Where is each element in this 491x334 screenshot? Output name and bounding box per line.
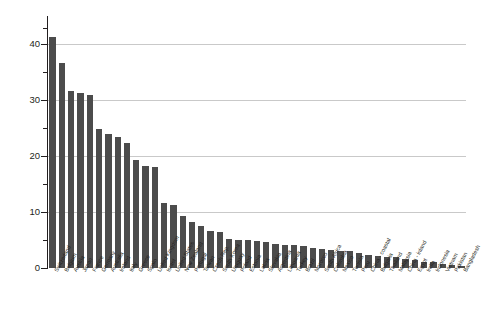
bar (49, 37, 55, 268)
y-tick-label: 20 (6, 151, 40, 161)
bar (124, 143, 130, 268)
bar (133, 160, 139, 268)
y-axis-tick-labels: 010203040 (0, 0, 40, 334)
bar (87, 95, 93, 268)
bar (142, 166, 148, 268)
y-tick-label: 10 (6, 207, 40, 217)
bar (105, 134, 111, 268)
bar (115, 137, 121, 268)
y-tick-label: 30 (6, 95, 40, 105)
x-axis-tick-labels: SwitzerlandBelgiumAustriaJapanFranceGerm… (48, 270, 478, 334)
bar-series (48, 22, 466, 268)
bar-chart-figure: US$ per operator-hour 010203040 Switzerl… (0, 0, 491, 334)
bar (77, 93, 83, 268)
bar (96, 129, 102, 268)
bar (59, 63, 65, 268)
bar (152, 167, 158, 268)
y-tick-label: 0 (6, 263, 40, 273)
bar (68, 91, 74, 268)
plot-area (48, 22, 466, 268)
y-tick-major (41, 268, 48, 269)
y-tick-label: 40 (6, 39, 40, 49)
